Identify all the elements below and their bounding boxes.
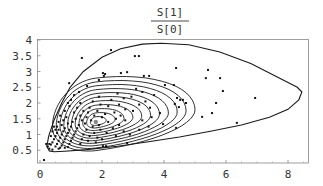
data-point <box>61 124 63 126</box>
data-point <box>130 96 132 98</box>
data-point <box>67 122 69 124</box>
data-point <box>211 112 213 114</box>
data-point <box>215 102 217 104</box>
data-point <box>102 145 104 147</box>
data-point <box>75 118 77 120</box>
data-point <box>55 145 57 147</box>
data-point <box>56 132 58 134</box>
data-point <box>118 124 120 126</box>
data-point <box>59 137 61 139</box>
data-point <box>117 93 119 95</box>
data-point <box>148 126 150 128</box>
data-point <box>112 127 114 129</box>
data-point <box>79 115 81 117</box>
data-point <box>78 124 80 126</box>
data-point <box>175 67 177 69</box>
data-point <box>81 57 83 59</box>
data-point <box>149 107 151 109</box>
data-point <box>81 138 83 140</box>
data-point <box>99 104 101 106</box>
data-point <box>174 103 176 105</box>
data-point <box>51 130 53 132</box>
data-point <box>96 110 98 112</box>
y-tick-label: 2.5 <box>12 81 32 94</box>
x-tick-label: 0 <box>37 168 44 181</box>
data-point <box>73 134 75 136</box>
data-point <box>67 132 69 134</box>
data-point <box>61 134 63 136</box>
data-point <box>222 90 224 92</box>
data-point <box>72 137 74 139</box>
data-point <box>179 99 181 101</box>
data-point <box>73 94 75 96</box>
density-contours <box>47 43 302 152</box>
data-point <box>236 122 238 124</box>
data-point <box>185 102 187 104</box>
data-point <box>151 116 153 118</box>
data-point <box>93 132 95 134</box>
y-tick-label: 2 <box>25 97 32 110</box>
data-point <box>134 55 136 57</box>
x-tick-label: 6 <box>223 168 230 181</box>
data-point <box>144 100 146 102</box>
y-tick-label: 1 <box>25 129 32 142</box>
data-point <box>138 129 140 131</box>
data-point <box>48 143 50 145</box>
data-point <box>51 141 53 143</box>
data-point <box>87 140 89 142</box>
data-point <box>86 129 88 131</box>
data-point <box>82 134 84 136</box>
y-tick-label: 3 <box>25 66 32 79</box>
data-point <box>99 129 101 131</box>
data-point <box>70 99 72 101</box>
data-point <box>107 105 109 107</box>
data-point <box>103 75 105 77</box>
chart-title: S[1] S[0] <box>151 6 189 36</box>
data-point <box>73 111 75 113</box>
contour-scatter-chart: S[1] S[0] 02468 0.511.522.533.54 <box>0 0 323 186</box>
data-point <box>43 159 45 161</box>
data-point <box>56 126 58 128</box>
data-point <box>67 102 69 104</box>
data-point <box>138 104 140 106</box>
data-point <box>92 126 94 128</box>
data-point <box>81 119 83 121</box>
data-point <box>68 105 70 107</box>
data-point <box>113 111 115 113</box>
data-point <box>107 121 109 123</box>
data-point <box>53 126 55 128</box>
data-point <box>75 130 77 132</box>
data-point <box>106 132 108 134</box>
data-point <box>47 145 49 147</box>
data-point <box>141 119 143 121</box>
mode-marker <box>94 120 98 124</box>
data-point <box>164 84 166 86</box>
title-numerator: S[1] <box>157 6 184 19</box>
data-point <box>124 108 126 110</box>
data-point <box>104 113 106 115</box>
data-point <box>143 75 145 77</box>
data-point <box>56 143 58 145</box>
data-point <box>120 72 122 74</box>
data-point <box>62 119 64 121</box>
x-tick-label: 8 <box>285 168 292 181</box>
data-point <box>89 107 91 109</box>
data-point <box>123 97 125 99</box>
x-tick-label: 4 <box>161 168 168 181</box>
data-point <box>64 138 66 140</box>
data-point <box>93 115 95 117</box>
data-point <box>86 116 88 118</box>
y-tick-label: 1.5 <box>12 113 32 126</box>
data-point <box>120 115 122 117</box>
data-point <box>64 110 66 112</box>
data-point <box>55 129 57 131</box>
data-point <box>68 82 70 84</box>
data-point <box>76 127 78 129</box>
data-point <box>61 145 63 147</box>
x-tick-label: 2 <box>99 168 106 181</box>
data-point <box>132 110 134 112</box>
y-tick-label: 4 <box>25 34 32 47</box>
data-point <box>87 111 89 113</box>
data-point <box>64 147 66 149</box>
data-point <box>58 121 60 123</box>
